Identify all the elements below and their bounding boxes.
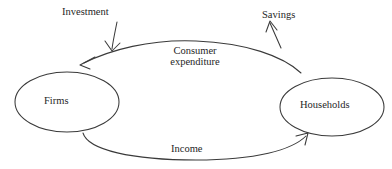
label-consumer-expenditure-line-2: expenditure (152, 56, 238, 67)
label-income: Income (171, 143, 203, 154)
label-savings: Savings (262, 9, 295, 20)
injection-investment-arrow-shaft[interactable] (112, 22, 117, 49)
withdrawal-savings-arrow-shaft[interactable] (270, 23, 281, 48)
label-households: Households (300, 99, 350, 110)
label-consumer-expenditure: Consumer expenditure (152, 45, 238, 68)
label-consumer-expenditure-line-1: Consumer (152, 45, 238, 56)
circular-flow-diagram: Investment Savings Consumer expenditure … (0, 0, 392, 169)
label-firms: Firms (44, 95, 69, 106)
label-investment: Investment (62, 6, 109, 17)
